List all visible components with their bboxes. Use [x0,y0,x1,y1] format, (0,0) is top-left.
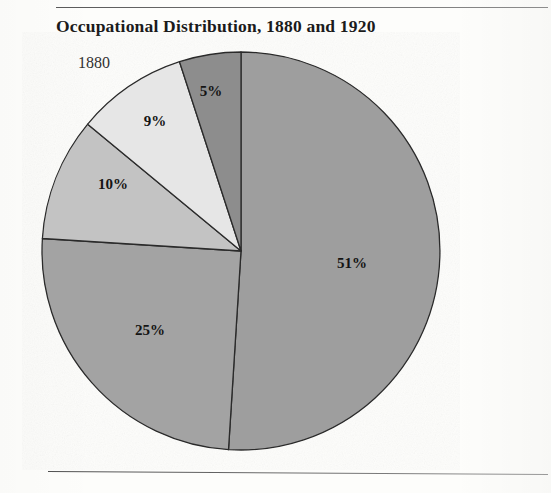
pie-slice-label-51: 51% [337,255,367,271]
pie-slice-label-25: 25% [135,322,165,338]
pie-slice-label-9: 9% [144,113,167,129]
pie-slice-label-10: 10% [98,176,128,192]
pie-slice-51[interactable] [229,52,440,450]
pie-slice-label-5: 5% [200,83,223,99]
pie-chart: 51%25%10%9%5% [0,0,551,493]
pie-slice-25[interactable] [42,239,241,450]
pie-chart-svg: 51%25%10%9%5% [0,0,551,493]
